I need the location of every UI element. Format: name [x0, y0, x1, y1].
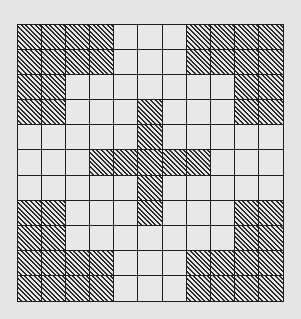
grid-cell-empty	[187, 125, 211, 150]
grid-cell-shaded	[235, 276, 259, 301]
grid-cell-shaded	[235, 100, 259, 125]
grid-cell-shaded	[235, 226, 259, 251]
grid-cell-shaded	[90, 25, 114, 50]
grid-cell-empty	[66, 226, 90, 251]
grid-cell-shaded	[259, 75, 283, 100]
grid-cell-empty	[66, 100, 90, 125]
grid-cell-shaded	[42, 276, 66, 301]
grid-cell-empty	[138, 25, 162, 50]
grid-cell-shaded	[259, 50, 283, 75]
grid-cell-empty	[114, 276, 138, 301]
grid-cell-empty	[163, 276, 187, 301]
grid-cell-shaded	[18, 251, 42, 276]
grid-cell-shaded	[18, 75, 42, 100]
grid-cell-empty	[187, 100, 211, 125]
grid-cell-empty	[90, 176, 114, 201]
grid-cell-empty	[18, 125, 42, 150]
grid-cell-empty	[211, 201, 235, 226]
grid-cell-empty	[90, 125, 114, 150]
grid-cell-shaded	[90, 276, 114, 301]
grid-cell-shaded	[42, 100, 66, 125]
grid-cell-shaded	[235, 201, 259, 226]
grid-cell-empty	[187, 201, 211, 226]
grid-cell-shaded	[211, 50, 235, 75]
grid-cell-shaded	[42, 25, 66, 50]
grid-cell-empty	[163, 100, 187, 125]
grid-cell-shaded	[235, 25, 259, 50]
grid-cell-shaded	[259, 226, 283, 251]
grid-cell-empty	[163, 75, 187, 100]
grid-cell-empty	[66, 150, 90, 175]
grid-cell-empty	[187, 226, 211, 251]
grid-cell-shaded	[187, 25, 211, 50]
grid-cell-empty	[259, 150, 283, 175]
grid-cell-shaded	[187, 276, 211, 301]
grid-cell-shaded	[211, 251, 235, 276]
grid-cell-empty	[90, 201, 114, 226]
grid-cell-empty	[138, 276, 162, 301]
grid-cell-shaded	[138, 176, 162, 201]
grid-cell-empty	[235, 176, 259, 201]
grid-cell-empty	[114, 226, 138, 251]
grid-cell-empty	[235, 125, 259, 150]
grid-cell-empty	[163, 176, 187, 201]
grid-cell-shaded	[138, 201, 162, 226]
grid-cell-empty	[138, 251, 162, 276]
grid-cell-empty	[90, 75, 114, 100]
grid-cell-shaded	[66, 50, 90, 75]
grid-cell-empty	[114, 25, 138, 50]
grid-cell-shaded	[18, 25, 42, 50]
grid-cell-empty	[211, 176, 235, 201]
grid-cell-shaded	[138, 100, 162, 125]
grid-cell-shaded	[138, 150, 162, 175]
grid-cell-shaded	[66, 25, 90, 50]
grid-cell-shaded	[114, 150, 138, 175]
grid-cell-empty	[42, 176, 66, 201]
grid-cell-shaded	[138, 125, 162, 150]
grid-cell-empty	[114, 50, 138, 75]
grid-cell-empty	[114, 75, 138, 100]
grid-cell-empty	[114, 100, 138, 125]
grid-cell-empty	[211, 125, 235, 150]
grid-cell-empty	[114, 251, 138, 276]
grid-cell-empty	[211, 100, 235, 125]
grid-cell-empty	[42, 125, 66, 150]
grid-cell-empty	[18, 176, 42, 201]
grid-cell-shaded	[42, 226, 66, 251]
grid-cell-shaded	[18, 50, 42, 75]
grid-cell-shaded	[235, 251, 259, 276]
grid-cell-empty	[187, 176, 211, 201]
grid-cell-empty	[259, 125, 283, 150]
grid-cell-shaded	[211, 25, 235, 50]
grid-cell-shaded	[187, 251, 211, 276]
grid-cell-empty	[259, 176, 283, 201]
grid-cell-shaded	[235, 50, 259, 75]
grid-cell-empty	[90, 100, 114, 125]
grid-cell-shaded	[259, 201, 283, 226]
grid-cell-shaded	[187, 150, 211, 175]
grid-cell-shaded	[259, 25, 283, 50]
grid-cell-shaded	[259, 276, 283, 301]
grid-cell-shaded	[42, 50, 66, 75]
grid-cell-empty	[66, 201, 90, 226]
grid-cell-empty	[163, 201, 187, 226]
grid-cell-empty	[163, 226, 187, 251]
grid-cell-shaded	[18, 100, 42, 125]
grid-cell-shaded	[235, 75, 259, 100]
grid-cell-empty	[90, 226, 114, 251]
grid-cell-shaded	[66, 276, 90, 301]
grid-cell-shaded	[259, 100, 283, 125]
grid-cell-shaded	[90, 50, 114, 75]
grid-cell-shaded	[18, 201, 42, 226]
hatched-grid-diagram	[17, 24, 284, 302]
grid-cell-shaded	[42, 75, 66, 100]
grid-cell-empty	[66, 125, 90, 150]
grid-cell-empty	[66, 176, 90, 201]
grid-cell-shaded	[42, 201, 66, 226]
grid-cell-shaded	[187, 50, 211, 75]
grid-cell-shaded	[163, 150, 187, 175]
grid-cell-empty	[66, 75, 90, 100]
grid-cell-empty	[187, 75, 211, 100]
grid-cell-empty	[114, 201, 138, 226]
grid-cell-empty	[138, 75, 162, 100]
